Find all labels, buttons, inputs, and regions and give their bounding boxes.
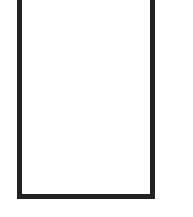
canvas [0, 0, 193, 217]
rectangle-frame [17, 0, 155, 199]
